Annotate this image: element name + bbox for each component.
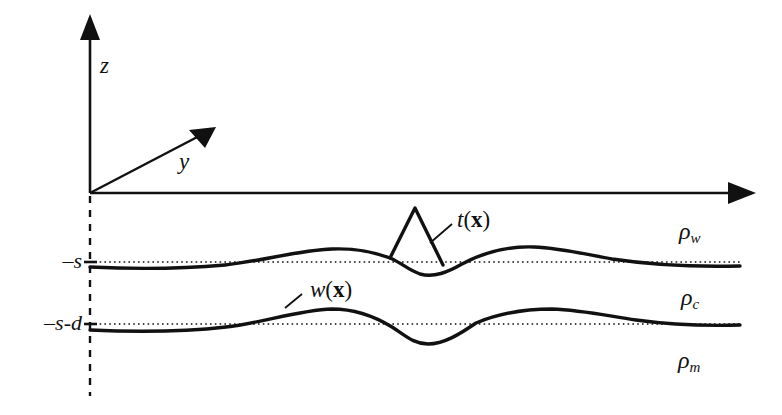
deflection-fn-symbol: w <box>310 277 325 302</box>
y-axis-label: y <box>179 150 189 173</box>
topography-variable: x <box>471 207 483 232</box>
density-water-subscript: w <box>691 230 701 246</box>
moho-interface-curve <box>90 309 740 344</box>
deflection-function-label: w(x) <box>310 278 352 301</box>
density-label-crust: ρc <box>681 285 699 312</box>
deflection-paren-close: ) <box>345 277 353 302</box>
topography-leader-line <box>430 224 452 243</box>
density-label-water: ρw <box>679 219 701 246</box>
deflection-variable: x <box>333 277 345 302</box>
z-axis-arrowhead <box>80 14 100 40</box>
density-label-mantle: ρm <box>678 348 700 375</box>
density-mantle-symbol: ρ <box>678 347 690 373</box>
topography-triangle <box>390 208 443 265</box>
density-mantle-subscript: m <box>690 359 701 375</box>
z-axis-label: z <box>100 54 109 77</box>
density-water-symbol: ρ <box>679 218 691 244</box>
density-crust-symbol: ρ <box>681 284 693 310</box>
topography-paren-close: ) <box>483 207 491 232</box>
topography-paren-open: ( <box>463 207 471 232</box>
depth-label-moho: –s-d <box>8 312 82 334</box>
deflection-leader-line <box>285 294 302 308</box>
seafloor-interface-curve <box>90 247 740 275</box>
deflection-paren-open: ( <box>325 277 333 302</box>
depth-label-surface: –s <box>20 250 82 272</box>
topography-function-label: t(x) <box>457 208 490 231</box>
x-axis-arrowhead <box>728 182 756 204</box>
diagram-canvas <box>0 0 782 415</box>
isostasy-diagram: z y –s –s-d t(x) w(x) ρw ρc ρm <box>0 0 782 415</box>
y-axis-arrowhead <box>189 127 216 148</box>
density-crust-subscript: c <box>693 296 700 312</box>
